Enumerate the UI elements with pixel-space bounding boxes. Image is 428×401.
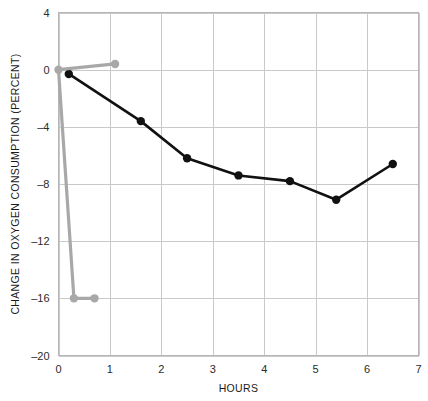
data-point-marker [389, 160, 397, 168]
x-tick-label: 4 [261, 363, 267, 375]
data-point-marker [70, 294, 78, 302]
x-axis-title: HOURS [219, 382, 259, 394]
x-tick-label: 5 [313, 363, 319, 375]
data-point-marker [286, 177, 294, 185]
data-point-marker [137, 117, 145, 125]
y-axis-title: CHANGE IN OXYGEN CONSUMPTION (PERCENT) [9, 53, 21, 314]
data-point-marker [90, 294, 98, 302]
oxygen-consumption-line-chart: 01234567 40–4–8–12–16–20 HOURS CHANGE IN… [0, 0, 428, 401]
data-point-marker [332, 196, 340, 204]
x-tick-label: 2 [158, 363, 164, 375]
y-tick-label: –20 [31, 350, 49, 362]
y-tick-label: –16 [31, 292, 49, 304]
x-tick-label: 1 [107, 363, 113, 375]
data-point-marker [111, 60, 119, 68]
data-point-marker [183, 154, 191, 162]
y-tick-label: 4 [43, 7, 49, 19]
y-tick-label: –8 [37, 178, 49, 190]
data-point-marker [54, 65, 62, 73]
y-tick-label: –12 [31, 235, 49, 247]
x-tick-label: 0 [55, 363, 61, 375]
y-tick-label: 0 [43, 64, 49, 76]
x-tick-label: 6 [364, 363, 370, 375]
data-point-marker [65, 70, 73, 78]
x-tick-label: 3 [210, 363, 216, 375]
x-tick-label: 7 [415, 363, 421, 375]
data-point-marker [234, 171, 242, 179]
chart-container: 01234567 40–4–8–12–16–20 HOURS CHANGE IN… [0, 0, 428, 401]
y-tick-label: –4 [37, 121, 49, 133]
